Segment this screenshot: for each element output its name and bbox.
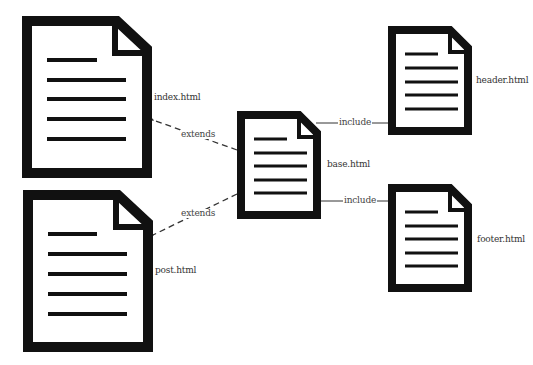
node-label-index: index.html [154,93,201,102]
node-label-header: header.html [476,76,528,85]
template-inheritance-diagram: index.html post.html base.html header.ht… [0,0,533,365]
edge-label-extends-post: extends [180,209,216,218]
edge-label-extends-index: extends [180,130,216,139]
edge-label-include-header: include [338,118,372,127]
document-icon-footer [392,188,468,288]
diagram-canvas [0,0,533,365]
document-icon-post [28,195,148,347]
node-label-base: base.html [327,160,370,169]
document-icon-base [241,115,317,215]
document-icon-header [392,30,468,131]
document-icon-index [27,21,147,173]
edge-label-include-footer: include [343,196,377,205]
node-label-footer: footer.html [477,235,525,244]
node-label-post: post.html [155,266,196,275]
